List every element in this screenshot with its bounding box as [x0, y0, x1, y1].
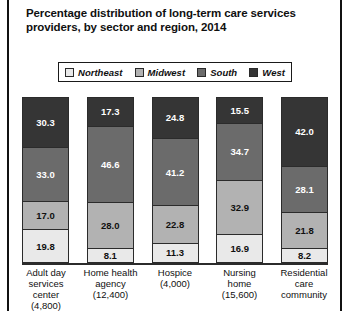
- bar-segment-south: 28.1: [282, 166, 327, 212]
- segment-value-label: 42.0: [295, 126, 314, 137]
- stacked-bar: 30.333.017.019.8: [22, 97, 69, 263]
- bar-segment-northeast: 11.3: [153, 243, 198, 262]
- bar-segment-west: 15.5: [217, 98, 262, 123]
- chart-title: Percentage distribution of long-term car…: [26, 6, 326, 34]
- segment-value-label: 8.2: [298, 250, 311, 261]
- bar-segment-south: 41.2: [153, 138, 198, 205]
- segment-value-label: 34.7: [231, 146, 250, 157]
- bar-segment-midwest: 22.8: [153, 205, 198, 243]
- category-label-line: home: [210, 278, 270, 289]
- x-axis-line: [22, 263, 328, 265]
- bar-segment-west: 42.0: [282, 98, 327, 166]
- segment-value-label: 11.3: [166, 247, 184, 258]
- segment-value-label: 46.6: [101, 159, 120, 170]
- category-label-line: (15,600): [210, 289, 270, 300]
- plot-area: 30.333.017.019.817.346.628.08.124.841.22…: [22, 97, 328, 263]
- category-label-line: Home health: [81, 267, 141, 278]
- stacked-bar: 24.841.222.811.3: [152, 97, 199, 263]
- category-label-line: care: [274, 278, 334, 289]
- category-label-line: community: [274, 289, 334, 300]
- stacked-bar: 42.028.121.88.2: [281, 97, 328, 263]
- segment-value-label: 8.1: [104, 250, 117, 261]
- stacked-bar: 17.346.628.08.1: [87, 97, 134, 263]
- segment-value-label: 28.1: [295, 184, 314, 195]
- legend-label-west: West: [262, 67, 285, 78]
- legend-swatch-south: [197, 68, 206, 77]
- bar-segment-northeast: 8.1: [88, 248, 133, 262]
- legend-label-south: South: [210, 67, 237, 78]
- category-label: Residentialcarecommunity: [274, 267, 334, 311]
- figure-left-rule: [7, 0, 9, 311]
- category-label: Home healthagency(12,400): [81, 267, 141, 311]
- bar-segment-west: 30.3: [23, 98, 68, 147]
- category-label: Hospice(4,000): [145, 267, 205, 311]
- segment-value-label: 33.0: [36, 169, 55, 180]
- legend-swatch-midwest: [135, 68, 144, 77]
- segment-value-label: 19.8: [36, 241, 55, 252]
- legend-item-west: West: [249, 67, 285, 78]
- bar-segment-west: 24.8: [153, 98, 198, 138]
- legend-swatch-northeast: [65, 68, 74, 77]
- segment-value-label: 28.0: [101, 220, 120, 231]
- category-label: Adult dayservices center(4,800): [16, 267, 76, 311]
- segment-value-label: 32.9: [231, 202, 250, 213]
- category-label-line: services center: [16, 278, 76, 300]
- category-axis-labels: Adult dayservices center(4,800)Home heal…: [22, 267, 328, 311]
- segment-value-label: 41.2: [166, 167, 185, 178]
- segment-value-label: 15.5: [231, 105, 250, 116]
- category-label-line: (12,400): [81, 289, 141, 300]
- legend-item-south: South: [197, 67, 237, 78]
- bar-segment-west: 17.3: [88, 98, 133, 126]
- legend-item-northeast: Northeast: [65, 67, 122, 78]
- category-label-line: agency: [81, 278, 141, 289]
- bar-segment-northeast: 19.8: [23, 229, 68, 262]
- category-label-line: Hospice: [145, 267, 205, 278]
- segment-value-label: 17.3: [101, 106, 120, 117]
- segment-value-label: 22.8: [166, 219, 185, 230]
- bar-segment-south: 33.0: [23, 147, 68, 201]
- bar-segment-northeast: 16.9: [217, 234, 262, 262]
- segment-value-label: 30.3: [36, 117, 55, 128]
- bar-segment-northeast: 8.2: [282, 248, 327, 262]
- bar-segment-south: 34.7: [217, 123, 262, 180]
- figure-right-rule: [340, 0, 342, 311]
- category-label-line: Adult day: [16, 267, 76, 278]
- segment-value-label: 21.8: [295, 225, 314, 236]
- chart-figure: Percentage distribution of long-term car…: [0, 0, 350, 311]
- bar-segment-midwest: 28.0: [88, 202, 133, 248]
- segment-value-label: 17.0: [36, 210, 55, 221]
- legend-item-midwest: Midwest: [135, 67, 185, 78]
- legend-label-midwest: Midwest: [148, 67, 185, 78]
- category-label: Nursinghome(15,600): [210, 267, 270, 311]
- category-label-line: (4,000): [145, 278, 205, 289]
- category-label-line: (4,800): [16, 300, 76, 311]
- bar-segment-midwest: 17.0: [23, 201, 68, 229]
- legend-label-northeast: Northeast: [78, 67, 122, 78]
- bar-segment-south: 46.6: [88, 126, 133, 202]
- chart-legend: Northeast Midwest South West: [58, 62, 292, 82]
- stacked-bar: 15.534.732.916.9: [216, 97, 263, 263]
- category-label-line: Residential: [274, 267, 334, 278]
- bar-segment-midwest: 32.9: [217, 180, 262, 234]
- bar-segment-midwest: 21.8: [282, 212, 327, 248]
- legend-swatch-west: [249, 68, 258, 77]
- segment-value-label: 24.8: [166, 112, 185, 123]
- segment-value-label: 16.9: [231, 243, 250, 254]
- category-label-line: Nursing: [210, 267, 270, 278]
